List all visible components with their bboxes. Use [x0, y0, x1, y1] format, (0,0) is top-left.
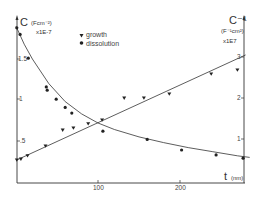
growth-point — [19, 158, 23, 161]
left-axis-arrow-icon — [16, 15, 19, 20]
tick-left-1: 1 — [19, 96, 23, 103]
growth-point — [142, 97, 146, 100]
dissolution-point — [15, 26, 18, 29]
legend-growth-label: growth — [86, 31, 107, 38]
dissolution-point — [46, 89, 49, 92]
dissolution-fit-curve — [16, 26, 250, 157]
growth-point — [122, 97, 126, 100]
tick-left-1-5: 1.5 — [18, 56, 27, 63]
right-axis-scale: x1E7 — [223, 38, 237, 44]
dissolution-point — [146, 138, 149, 141]
growth-point — [61, 129, 65, 132]
legend-growth-marker-icon — [80, 34, 84, 38]
dissolution-point — [64, 106, 67, 109]
dissolution-point — [45, 85, 48, 88]
x-axis-symbol: t — [224, 171, 227, 182]
dissolution-point — [70, 112, 73, 115]
tick-right-3: 3 — [237, 54, 241, 61]
dissolution-point — [180, 148, 183, 151]
growth-point — [167, 93, 171, 96]
tick-right-2: 2 — [237, 95, 241, 102]
x-axis-units: (nm) — [231, 175, 243, 181]
dissolution-point — [55, 98, 58, 101]
growth-point — [209, 73, 213, 76]
legend-dissolution-label: dissolution — [86, 40, 119, 47]
fit-lines — [16, 26, 250, 160]
growth-point — [71, 127, 75, 130]
growth-fit-line — [16, 55, 246, 160]
dissolution-point — [101, 130, 104, 133]
right-axis-symbol: C⁻¹ — [229, 15, 247, 26]
tick-x-200: 200 — [175, 185, 186, 192]
tick-left-0-5: .5 — [20, 138, 25, 145]
tick-right-1: 1 — [237, 136, 241, 143]
growth-point — [15, 158, 19, 161]
tick-x-100: 100 — [93, 185, 104, 192]
dissolution-point — [215, 153, 218, 156]
growth-point — [235, 69, 239, 72]
left-axis-scale: x1E-7 — [36, 29, 52, 35]
left-axis-symbol: C — [20, 17, 28, 28]
left-axis-units: (Fcm⁻²) — [31, 20, 52, 26]
data-points — [15, 26, 245, 162]
growth-point — [86, 122, 90, 125]
tick-marks — [17, 57, 244, 183]
right-axis-units: (F⁻¹cm²) — [221, 28, 244, 34]
legend-dissolution-marker-icon — [80, 41, 84, 45]
dissolution-point — [19, 33, 22, 36]
dissolution-point — [27, 57, 30, 60]
dissolution-point — [242, 157, 245, 160]
